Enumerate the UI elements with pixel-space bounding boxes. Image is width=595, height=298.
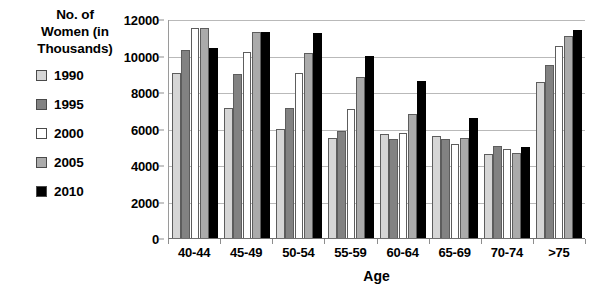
bar-group-55-59 [325,20,377,238]
y-tick-mark-10000 [159,56,164,57]
bar-60-64-2010 [417,81,426,238]
y-tick-label-0: 0 [152,232,159,247]
bar-50-54-2005 [304,53,313,238]
x-tick-mark-5 [429,239,430,244]
bar-55-59-1990 [328,138,337,238]
legend-swatch-1995 [36,99,47,110]
bar-70-74-2000 [503,149,512,238]
plot-frame [168,20,585,239]
bar-groups [169,20,585,238]
bar->75-1995 [545,65,554,238]
bar-40-44-2005 [200,28,209,238]
x-tick-label-60-64: 60-64 [377,245,429,260]
bar-55-59-2000 [347,109,356,238]
x-tick-label-40-44: 40-44 [168,245,220,260]
bar-70-74-1990 [484,154,493,238]
bar->75-2005 [564,36,573,238]
bar-group-70-74 [481,20,533,238]
y-tick-mark-12000 [159,20,164,21]
bar-group-40-44 [169,20,221,238]
legend-swatch-2005 [36,157,47,168]
plot-area [168,20,585,239]
y-tick-label-8000: 8000 [131,86,159,101]
x-tick-mark-2 [272,239,273,244]
bar-50-54-2010 [313,33,322,238]
x-tick-label-45-49: 45-49 [220,245,272,260]
bar->75-2010 [573,30,582,238]
x-axis-title: Age [168,268,585,284]
y-tick-mark-4000 [159,166,164,167]
legend-label-1990: 1990 [54,68,84,83]
bar-70-74-2005 [512,153,521,238]
bar-70-74-1995 [493,146,502,238]
bar-55-59-2010 [365,56,374,239]
x-tick-mark-6 [481,239,482,244]
bar-45-49-1995 [233,74,242,238]
y-tick-mark-0 [159,239,164,240]
bar-60-64-2005 [408,114,417,238]
bar->75-2000 [555,46,564,238]
bar-70-74-2010 [521,147,530,238]
bar-60-64-1995 [389,139,398,238]
bar-45-49-2005 [252,32,261,238]
bar-40-44-2000 [191,28,200,238]
bar-group-60-64 [377,20,429,238]
y-tick-label-6000: 6000 [131,122,159,137]
bar-50-54-1990 [276,129,285,238]
x-tick-mark-4 [377,239,378,244]
bar-50-54-2000 [295,73,304,238]
x-tick-mark-8 [585,239,586,244]
bar-65-69-1990 [432,136,441,238]
x-tick-mark-3 [324,239,325,244]
bar-40-44-1995 [181,50,190,238]
y-tick-label-2000: 2000 [131,195,159,210]
bar-group->75 [533,20,585,238]
x-tick-mark-1 [220,239,221,244]
bar-65-69-2005 [460,138,469,238]
bar-60-64-1990 [380,134,389,238]
legend-swatch-1990 [36,70,47,81]
bar-group-65-69 [429,20,481,238]
bar->75-1990 [536,82,545,238]
x-tick-mark-7 [533,239,534,244]
bar-45-49-1990 [224,108,233,238]
bar-group-45-49 [221,20,273,238]
y-tick-mark-2000 [159,202,164,203]
x-axis-labels: 40-4445-4950-5455-5960-6465-6970-74>75 [168,245,585,260]
legend-label-2005: 2005 [54,155,84,170]
x-tick-label-55-59: 55-59 [324,245,376,260]
x-tick-label-50-54: 50-54 [272,245,324,260]
bar-chart-figure: No. of Women (in Thousands) 199019952000… [0,0,595,298]
y-axis: 020004000600080001000012000 [100,20,164,239]
bar-65-69-1995 [441,139,450,238]
legend-swatch-2010 [36,186,47,197]
legend-swatch-2000 [36,128,47,139]
bar-40-44-2010 [209,48,218,238]
y-tick-label-4000: 4000 [131,159,159,174]
bar-65-69-2010 [469,118,478,238]
legend-label-2000: 2000 [54,126,84,141]
bar-60-64-2000 [399,133,408,238]
bar-50-54-1995 [285,108,294,238]
legend-label-2010: 2010 [54,184,84,199]
y-tick-mark-8000 [159,93,164,94]
x-tick-mark-0 [168,239,169,244]
x-tick-label-65-69: 65-69 [429,245,481,260]
x-tick-label->75: >75 [533,245,585,260]
y-tick-label-10000: 10000 [124,49,159,64]
bar-45-49-2010 [261,32,270,238]
bar-45-49-2000 [243,52,252,238]
y-tick-mark-6000 [159,129,164,130]
bar-65-69-2000 [451,144,460,238]
bar-group-50-54 [273,20,325,238]
y-tick-label-12000: 12000 [124,13,159,28]
bar-40-44-1990 [172,73,181,238]
bar-55-59-1995 [337,131,346,238]
legend-label-1995: 1995 [54,97,84,112]
bar-55-59-2005 [356,77,365,238]
x-tick-label-70-74: 70-74 [481,245,533,260]
